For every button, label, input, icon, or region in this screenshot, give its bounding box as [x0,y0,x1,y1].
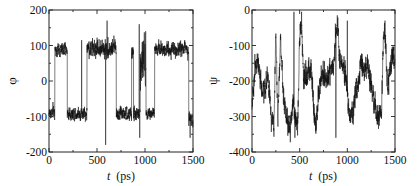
psi-x-label-var: t [309,169,313,183]
x-tick-label: 0 [249,154,255,166]
phi-chart: 050010001500-200-1000100200 φ t (ps) [4,4,205,183]
x-tick-label: 1500 [182,154,205,166]
y-tick-label: -100 [229,40,250,52]
phi-x-label-unit: (ps) [116,169,135,183]
y-tick-label: 200 [30,4,48,16]
x-tick-label: 500 [291,154,309,166]
data-line [49,21,193,145]
y-tick-label: -300 [229,111,250,123]
y-tick-label: -200 [26,146,47,158]
y-tick-label: 100 [30,40,48,52]
data-line [252,12,395,142]
figure: 050010001500-200-1000100200 φ t (ps) 050… [0,0,420,186]
phi-y-axis-label: φ [4,77,19,85]
phi-plot-frame [49,10,193,152]
x-tick-label: 500 [88,154,106,166]
psi-x-axis-label: t (ps) [309,169,337,183]
phi-tick-labels: 050010001500-200-1000100200 [26,4,205,166]
y-tick-label: -100 [26,111,47,123]
psi-tick-labels: 050010001500-400-300-200-1000 [229,4,407,166]
x-tick-label: 1000 [336,154,359,166]
psi-trace [252,12,395,142]
phi-x-axis-label: t (ps) [107,169,135,183]
y-tick-label: -400 [229,146,250,158]
psi-x-label-unit: (ps) [318,169,337,183]
phi-trace [49,21,193,145]
psi-y-axis-label: ψ [205,77,220,85]
y-tick-label: 0 [41,75,47,87]
phi-axis-ticks [49,10,193,152]
x-tick-label: 1500 [384,154,407,166]
x-tick-label: 1000 [134,154,157,166]
x-tick-label: 0 [46,154,52,166]
y-tick-label: -200 [229,75,250,87]
psi-chart: 050010001500-400-300-200-1000 ψ t (ps) [205,4,407,183]
phi-x-label-var: t [107,169,111,183]
y-tick-label: 0 [244,4,250,16]
